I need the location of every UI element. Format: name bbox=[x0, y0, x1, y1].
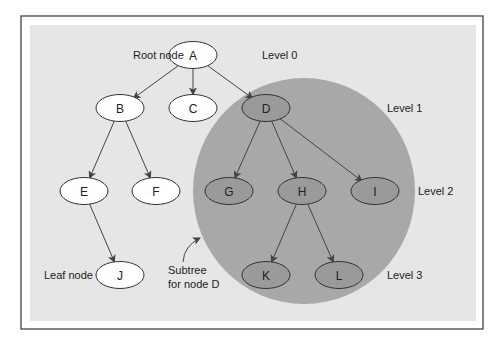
node-label: A bbox=[189, 49, 197, 63]
level-label-1: Level 1 bbox=[387, 102, 422, 114]
tree-node-H: H bbox=[278, 178, 326, 205]
tree-node-D: D bbox=[242, 95, 290, 122]
node-label: J bbox=[117, 269, 123, 283]
root-node-label: Root node bbox=[133, 49, 184, 61]
tree-node-K: K bbox=[242, 262, 290, 289]
node-label: E bbox=[80, 185, 88, 199]
node-label: I bbox=[373, 185, 376, 199]
tree-node-I: I bbox=[351, 178, 399, 205]
node-label: C bbox=[189, 102, 198, 116]
tree-node-G: G bbox=[205, 178, 253, 205]
level-label-0: Level 0 bbox=[262, 49, 297, 61]
tree-node-B: B bbox=[96, 95, 144, 122]
level-label-3: Level 3 bbox=[387, 269, 422, 281]
node-label: H bbox=[298, 185, 307, 199]
leaf-node-label: Leaf node bbox=[44, 269, 93, 281]
tree-node-L: L bbox=[315, 262, 363, 289]
level-label-2: Level 2 bbox=[418, 185, 453, 197]
node-label: K bbox=[262, 269, 270, 283]
node-label: G bbox=[224, 185, 233, 199]
tree-node-C: C bbox=[169, 95, 217, 122]
subtree-label-line1: Subtree bbox=[168, 264, 207, 276]
subtree-label-line2: for node D bbox=[168, 278, 219, 290]
tree-node-F: F bbox=[132, 178, 180, 205]
node-label: B bbox=[116, 102, 124, 116]
tree-diagram: ABCDEFGHIJKL Root node Leaf node Subtree… bbox=[0, 0, 503, 345]
node-label: L bbox=[336, 269, 343, 283]
tree-node-J: J bbox=[96, 262, 144, 289]
node-label: D bbox=[262, 102, 271, 116]
tree-node-E: E bbox=[60, 178, 108, 205]
node-label: F bbox=[152, 185, 159, 199]
